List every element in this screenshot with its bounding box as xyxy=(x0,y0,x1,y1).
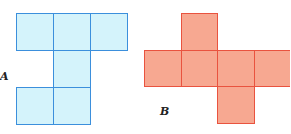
figure-a-label: A xyxy=(0,70,9,83)
net-square xyxy=(181,13,219,51)
net-square xyxy=(53,13,91,51)
net-square xyxy=(254,50,291,88)
net-square xyxy=(144,50,182,88)
net-square xyxy=(181,50,219,88)
net-square xyxy=(90,13,128,51)
net-square xyxy=(53,87,91,125)
net-square xyxy=(217,50,255,88)
figure-b-label: B xyxy=(160,105,169,118)
net-square xyxy=(16,87,54,125)
net-square xyxy=(16,13,54,51)
net-square xyxy=(53,50,91,88)
net-square xyxy=(217,86,255,124)
